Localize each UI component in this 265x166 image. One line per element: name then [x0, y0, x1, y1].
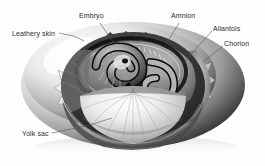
label-allantois: Allantois — [213, 25, 240, 33]
figure-canvas: Leathery skin Embryo Amnion Allantois Ch… — [0, 0, 265, 166]
label-leathery-skin: Leathery skin — [12, 30, 55, 38]
label-chorion: Chorion — [224, 40, 249, 48]
label-embryo: Embryo — [79, 12, 104, 20]
label-yolk-sac: Yolk sac — [22, 130, 49, 138]
label-amnion: Amnion — [171, 12, 195, 20]
